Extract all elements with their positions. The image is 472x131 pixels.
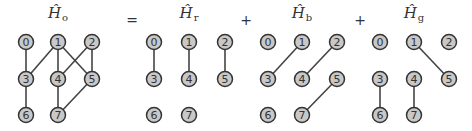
node-6: 6 bbox=[373, 108, 388, 123]
operator-subscript: g bbox=[418, 12, 424, 23]
node-3: 3 bbox=[147, 72, 162, 87]
hamiltonian-decomposition-diagram: 01234567012345670123456701234567 =++ĤoĤr… bbox=[0, 0, 472, 131]
node-label: 0 bbox=[151, 36, 158, 49]
node-7: 7 bbox=[182, 108, 197, 123]
node-2: 2 bbox=[330, 35, 345, 50]
node-label: 5 bbox=[222, 73, 229, 86]
node-label: 2 bbox=[89, 36, 96, 49]
node-label: 2 bbox=[222, 36, 229, 49]
node-0: 0 bbox=[261, 35, 276, 50]
node-label: 1 bbox=[186, 36, 193, 49]
panel-title-hr: Ĥr bbox=[180, 4, 199, 23]
node-3: 3 bbox=[261, 72, 276, 87]
operator-symbol: Ĥ bbox=[404, 4, 417, 22]
plus-sign: + bbox=[240, 12, 252, 28]
operator-symbol: Ĥ bbox=[180, 4, 193, 22]
operator-subscript: o bbox=[62, 12, 68, 23]
node-4: 4 bbox=[295, 72, 310, 87]
node-label: 7 bbox=[411, 109, 418, 122]
node-6: 6 bbox=[261, 108, 276, 123]
node-6: 6 bbox=[147, 108, 162, 123]
node-label: 7 bbox=[55, 109, 62, 122]
node-label: 4 bbox=[55, 73, 62, 86]
node-label: 5 bbox=[89, 73, 96, 86]
operator-subscript: r bbox=[194, 12, 199, 23]
node-label: 0 bbox=[377, 36, 384, 49]
node-label: 6 bbox=[151, 109, 158, 122]
node-label: 2 bbox=[334, 36, 341, 49]
node-label: 0 bbox=[265, 36, 272, 49]
node-2: 2 bbox=[85, 35, 100, 50]
node-label: 1 bbox=[299, 36, 306, 49]
node-label: 4 bbox=[186, 73, 193, 86]
node-5: 5 bbox=[218, 72, 233, 87]
node-1: 1 bbox=[51, 35, 66, 50]
node-0: 0 bbox=[19, 35, 34, 50]
panel-title-hb: Ĥb bbox=[292, 4, 313, 23]
equals-sign: = bbox=[126, 12, 138, 28]
node-label: 3 bbox=[377, 73, 384, 86]
node-5: 5 bbox=[85, 72, 100, 87]
node-7: 7 bbox=[295, 108, 310, 123]
graph-panel-hr: 01234567 bbox=[147, 35, 233, 123]
plus-sign: + bbox=[354, 12, 366, 28]
operator-subscript: b bbox=[306, 12, 312, 23]
node-0: 0 bbox=[147, 35, 162, 50]
node-label: 2 bbox=[446, 36, 453, 49]
node-label: 4 bbox=[411, 73, 418, 86]
node-label: 5 bbox=[446, 73, 453, 86]
node-7: 7 bbox=[51, 108, 66, 123]
node-4: 4 bbox=[407, 72, 422, 87]
node-3: 3 bbox=[373, 72, 388, 87]
node-0: 0 bbox=[373, 35, 388, 50]
node-label: 1 bbox=[411, 36, 418, 49]
node-label: 7 bbox=[186, 109, 193, 122]
node-label: 6 bbox=[377, 109, 384, 122]
node-label: 7 bbox=[299, 109, 306, 122]
node-2: 2 bbox=[442, 35, 457, 50]
node-label: 5 bbox=[334, 73, 341, 86]
node-label: 3 bbox=[23, 73, 30, 86]
node-label: 3 bbox=[151, 73, 158, 86]
node-3: 3 bbox=[19, 72, 34, 87]
node-label: 4 bbox=[299, 73, 306, 86]
node-label: 0 bbox=[23, 36, 30, 49]
node-4: 4 bbox=[51, 72, 66, 87]
operator-symbol: Ĥ bbox=[48, 4, 61, 22]
panel-title-hg: Ĥg bbox=[404, 4, 425, 23]
panel-title-ho: Ĥo bbox=[48, 4, 68, 23]
node-6: 6 bbox=[19, 108, 34, 123]
graph-panel-hb: 01234567 bbox=[261, 35, 345, 123]
node-2: 2 bbox=[218, 35, 233, 50]
node-1: 1 bbox=[182, 35, 197, 50]
node-1: 1 bbox=[407, 35, 422, 50]
graph-panel-hg: 01234567 bbox=[373, 35, 457, 123]
node-label: 1 bbox=[55, 36, 62, 49]
operator-symbol: Ĥ bbox=[292, 4, 305, 22]
node-label: 6 bbox=[23, 109, 30, 122]
graph-panel-ho: 01234567 bbox=[19, 35, 100, 123]
node-7: 7 bbox=[407, 108, 422, 123]
node-5: 5 bbox=[330, 72, 345, 87]
node-4: 4 bbox=[182, 72, 197, 87]
node-1: 1 bbox=[295, 35, 310, 50]
node-label: 6 bbox=[265, 109, 272, 122]
graph-canvas: 01234567012345670123456701234567 bbox=[0, 0, 472, 131]
node-5: 5 bbox=[442, 72, 457, 87]
node-label: 3 bbox=[265, 73, 272, 86]
